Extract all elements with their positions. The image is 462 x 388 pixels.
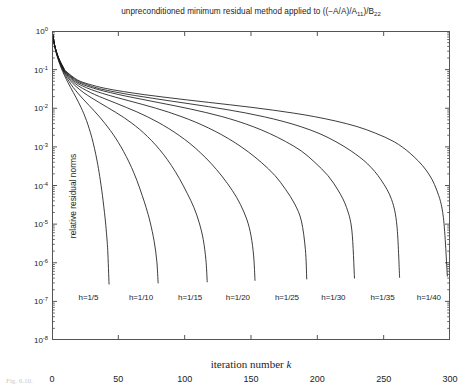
y-tick-label-1e-3: 10-3 bbox=[22, 142, 48, 153]
y-tick-label-1e-1: 10-1 bbox=[22, 64, 48, 75]
curve-h-1-40 bbox=[52, 31, 447, 276]
x-tick-label-200: 200 bbox=[310, 374, 325, 384]
curve-label-h-1-20: h=1/20 bbox=[226, 293, 250, 302]
y-tick-label-1e-7: 10-7 bbox=[22, 296, 48, 307]
chart-title-sub-b22: 22 bbox=[374, 11, 381, 17]
curve-group bbox=[52, 31, 447, 284]
chart-title-mid: )/B bbox=[363, 7, 374, 16]
y-tick-label-1e0: 100 bbox=[22, 26, 48, 37]
curve-label-h-1-15: h=1/15 bbox=[178, 293, 202, 302]
curve-label-h-1-10: h=1/10 bbox=[129, 293, 153, 302]
x-axis-title: iteration number k bbox=[52, 358, 450, 370]
curve-label-h-1-25: h=1/25 bbox=[275, 293, 299, 302]
y-tick-label-1e-2: 10-2 bbox=[22, 103, 48, 114]
axis-minor-ticks bbox=[52, 33, 450, 329]
chart-title: unpreconditioned minimum residual method… bbox=[52, 6, 450, 20]
x-tick-label-300: 300 bbox=[442, 374, 457, 384]
curve-label-h-1-5: h=1/5 bbox=[79, 293, 99, 302]
plot-area: 10010-110-210-310-410-510-610-710-8 0501… bbox=[52, 31, 450, 340]
y-tick-label-1e-8: 10-8 bbox=[22, 335, 48, 346]
x-tick-label-250: 250 bbox=[376, 374, 391, 384]
y-axis-title: relative residual norms bbox=[68, 126, 78, 266]
y-tick-label-1e-5: 10-5 bbox=[22, 219, 48, 230]
curve-label-h-1-35: h=1/35 bbox=[370, 293, 394, 302]
y-tick-label-1e-4: 10-4 bbox=[22, 180, 48, 191]
chart-title-main: unpreconditioned minimum residual method… bbox=[121, 7, 357, 16]
curve-h-1-5 bbox=[52, 31, 109, 284]
figure-caption: Fig. 6.10. bbox=[6, 377, 306, 388]
curve-label-h-1-40: h=1/40 bbox=[417, 293, 441, 302]
curve-h-1-20 bbox=[52, 31, 255, 280]
curve-label-h-1-30: h=1/30 bbox=[321, 293, 345, 302]
y-tick-label-1e-6: 10-6 bbox=[22, 257, 48, 268]
x-axis-title-variable: k bbox=[286, 358, 291, 370]
figure-container: unpreconditioned minimum residual method… bbox=[0, 0, 462, 388]
curve-h-1-25 bbox=[52, 31, 307, 279]
curve-h-1-35 bbox=[52, 31, 400, 277]
x-axis-title-text: iteration number bbox=[211, 358, 287, 370]
